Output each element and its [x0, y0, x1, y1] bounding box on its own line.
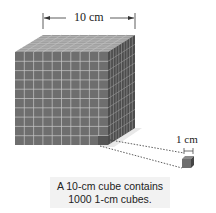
- caption-line-2: 1000 1-cm cubes.: [50, 193, 170, 206]
- unit-cube-front: [182, 159, 191, 168]
- big-cube-dimension-label: 10 cm: [72, 10, 106, 25]
- arrowhead-right-icon: [128, 16, 134, 20]
- arrowhead-left-icon: [44, 16, 50, 20]
- projection-line-bottom: [100, 146, 182, 168]
- caption-line-1: A 10-cm cube contains: [50, 180, 170, 193]
- corner-unit-cube: [98, 136, 108, 145]
- unit-cube-dimension-label: 1 cm: [176, 133, 198, 145]
- caption: A 10-cm cube contains 1000 1-cm cubes.: [50, 177, 170, 208]
